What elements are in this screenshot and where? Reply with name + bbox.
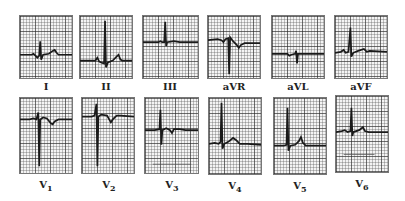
lead-label-v3: V3 xyxy=(142,179,202,194)
ecg-panel-lead-avf xyxy=(334,15,388,79)
ecg-panel-lead-v4 xyxy=(208,97,262,175)
ecg-panel-lead-v3 xyxy=(144,97,199,174)
lead-label-avl: aVL xyxy=(268,81,328,93)
ecg-panel-lead-v2 xyxy=(81,97,135,174)
ecg-panel-lead-v1 xyxy=(19,97,73,174)
lead-label-i: I xyxy=(16,81,76,93)
ecg-trace-lead-i xyxy=(20,16,72,78)
lead-label-v6: V6 xyxy=(332,178,392,193)
ecg-trace-lead-iii xyxy=(143,16,198,78)
ecg-trace-lead-v3 xyxy=(145,98,198,173)
ecg-trace-lead-v6 xyxy=(336,96,388,172)
lead-label-ii: II xyxy=(76,81,136,93)
ecg-trace-lead-avl xyxy=(272,16,324,78)
ecg-panel-lead-ii xyxy=(79,15,133,79)
lead-label-avr: aVR xyxy=(204,81,264,93)
ecg-panel-lead-avl xyxy=(271,15,325,79)
ecg-trace-lead-avr xyxy=(208,16,260,78)
ecg-trace-lead-v1 xyxy=(20,98,72,173)
ecg-trace-lead-v5 xyxy=(274,98,326,174)
lead-label-v1: V1 xyxy=(16,179,76,194)
ecg-panel-lead-iii xyxy=(142,15,199,79)
ecg-panel-lead-v5 xyxy=(273,97,327,175)
lead-label-avf: aVF xyxy=(331,81,391,93)
ecg-panel-lead-avr xyxy=(207,15,261,79)
lead-label-iii: III xyxy=(140,81,200,93)
ecg-trace-lead-avf xyxy=(335,16,387,78)
lead-label-v5: V5 xyxy=(270,180,330,195)
ecg-panel-lead-v6 xyxy=(335,95,389,173)
ecg-trace-lead-v4 xyxy=(209,98,261,174)
ecg-panel-lead-i xyxy=(19,15,73,79)
ecg-trace-lead-v2 xyxy=(82,98,134,173)
lead-label-v2: V2 xyxy=(79,179,139,194)
ecg-trace-lead-ii xyxy=(80,16,132,78)
lead-label-v4: V4 xyxy=(205,180,265,195)
